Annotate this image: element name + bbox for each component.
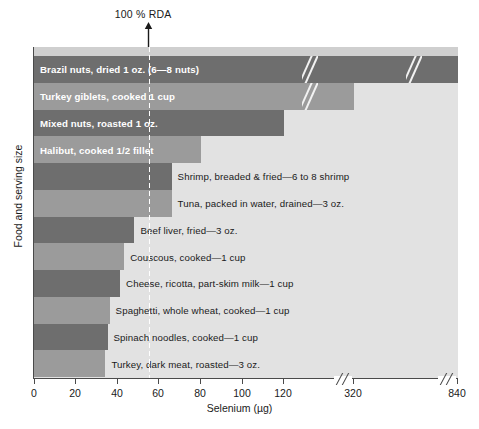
x-axis — [33, 378, 458, 379]
x-tick — [242, 378, 243, 384]
x-tick-label: 80 — [194, 387, 206, 399]
bar-label: Couscous, cooked—1 cup — [130, 251, 245, 262]
x-tick — [283, 378, 284, 384]
x-tick — [158, 378, 159, 384]
bar-row: Brazil nuts, dried 1 oz. (6—8 nuts) — [34, 56, 458, 83]
bar-row: Turkey giblets, cooked 1 cup — [34, 83, 458, 110]
x-tick-label: 60 — [152, 387, 164, 399]
rda-annotation-label: 100 % RDA — [115, 8, 172, 20]
y-axis-title: Food and serving size — [12, 126, 24, 266]
bar-row: Shrimp, breaded & fried—6 to 8 shrimp — [34, 163, 458, 190]
bar-label: Shrimp, breaded & fried—6 to 8 shrimp — [178, 171, 350, 182]
x-tick-label: 840 — [448, 387, 466, 399]
x-tick — [117, 378, 118, 384]
x-tick-label: 40 — [111, 387, 123, 399]
x-tick-label: 20 — [69, 387, 81, 399]
bar-9 — [34, 270, 120, 297]
x-tick — [353, 378, 354, 384]
bar-axis-break-icon — [406, 56, 422, 83]
x-tick — [34, 378, 35, 384]
rda-reference-line — [149, 47, 150, 378]
x-tick-label: 0 — [31, 387, 37, 399]
x-axis-title: Selenium (µg) — [0, 402, 479, 414]
x-tick — [457, 378, 458, 384]
plot-top-band — [34, 47, 458, 56]
bar-row: Tuna, packed in water, drained—3 oz. — [34, 190, 458, 217]
bar-axis-break-icon — [302, 83, 318, 110]
bar-row: Halibut, cooked 1/2 fillet — [34, 136, 458, 163]
bar-axis-break-icon — [302, 56, 318, 83]
bar-11 — [34, 324, 108, 351]
selenium-bar-chart: 100 % RDA Brazil nuts, dried 1 oz. (6—8 … — [0, 0, 479, 429]
bar-label: Brazil nuts, dried 1 oz. (6—8 nuts) — [40, 64, 199, 75]
bar-label: Beef liver, fried—3 oz. — [140, 224, 237, 235]
bar-label: Tuna, packed in water, drained—3 oz. — [178, 198, 344, 209]
bar-10 — [34, 297, 110, 324]
x-tick — [200, 378, 201, 384]
bar-7 — [34, 217, 134, 244]
bar-12 — [34, 350, 105, 377]
bar-label: Spinach noodles, cooked—1 cup — [114, 331, 259, 342]
x-tick — [75, 378, 76, 384]
x-tick-label: 320 — [344, 387, 362, 399]
bar-label: Halibut, cooked 1/2 fillet — [40, 144, 154, 155]
bar-row: Spinach noodles, cooked—1 cup — [34, 324, 458, 351]
bar-label: Mixed nuts, roasted 1 oz. — [40, 117, 158, 128]
x-tick-label: 100 — [233, 387, 251, 399]
bar-row: Couscous, cooked—1 cup — [34, 243, 458, 270]
bar-row: Cheese, ricotta, part-skim milk—1 cup — [34, 270, 458, 297]
bar-label: Spaghetti, whole wheat, cooked—1 cup — [116, 305, 290, 316]
bar-row: Mixed nuts, roasted 1 oz. — [34, 110, 458, 137]
bar-8 — [34, 243, 124, 270]
bar-6 — [34, 190, 172, 217]
x-axis-break-icon — [334, 373, 352, 385]
plot-area: Brazil nuts, dried 1 oz. (6—8 nuts)Turke… — [33, 47, 458, 378]
x-axis-break-icon — [438, 373, 456, 385]
x-tick-label: 120 — [274, 387, 292, 399]
bar-row: Turkey, dark meat, roasted—3 oz. — [34, 350, 458, 377]
bar-label: Cheese, ricotta, part-skim milk—1 cup — [126, 278, 293, 289]
bar-label: Turkey giblets, cooked 1 cup — [40, 91, 175, 102]
bar-5 — [34, 163, 172, 190]
bar-row: Spaghetti, whole wheat, cooked—1 cup — [34, 297, 458, 324]
bar-label: Turkey, dark meat, roasted—3 oz. — [111, 358, 260, 369]
bar-row: Beef liver, fried—3 oz. — [34, 217, 458, 244]
